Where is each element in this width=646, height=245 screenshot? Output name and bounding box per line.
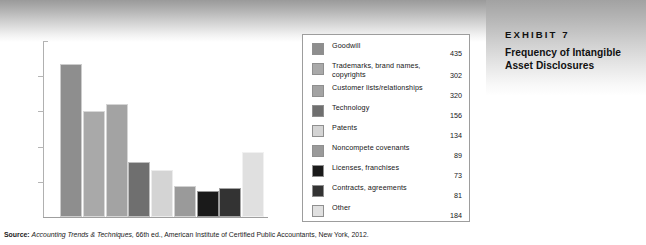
legend-item-label: Other xyxy=(324,203,440,212)
legend-item: Other184 xyxy=(312,203,462,220)
legend-item-value: 435 xyxy=(440,49,462,58)
legend-item: Technology156 xyxy=(312,103,462,120)
source-note: Source: Accounting Trends & Techniques, … xyxy=(4,231,634,238)
legend-color-swatch xyxy=(312,165,324,177)
source-detail: 66th ed., American Institute of Certifie… xyxy=(134,231,369,238)
y-axis-tick xyxy=(38,76,44,77)
legend-color-swatch xyxy=(312,43,324,55)
legend-color-swatch xyxy=(312,145,324,157)
legend-item-value: 156 xyxy=(440,111,462,120)
legend-item: Goodwill435 xyxy=(312,41,462,58)
exhibit-number: EXHIBIT 7 xyxy=(505,29,637,40)
legend-color-swatch xyxy=(312,125,324,137)
legend-item-label: Patents xyxy=(324,123,440,132)
exhibit-header: EXHIBIT 7 Frequency of Intangible Asset … xyxy=(505,29,637,72)
bar xyxy=(242,152,264,217)
y-axis-tick xyxy=(38,111,44,112)
legend-list: Goodwill435Trademarks, brand names, copy… xyxy=(312,41,462,223)
legend-color-swatch xyxy=(312,85,324,97)
legend-item-label: Licenses, franchises xyxy=(324,163,440,172)
bar xyxy=(83,111,105,217)
exhibit-title: Frequency of Intangible Asset Disclosure… xyxy=(505,46,637,72)
source-publication: Accounting Trends & Techniques, xyxy=(32,231,134,238)
y-axis-cap xyxy=(43,41,48,42)
legend-item-label: Customer lists/relationships xyxy=(324,83,440,92)
legend-item-value: 320 xyxy=(440,91,462,100)
legend-item-value: 81 xyxy=(440,191,462,200)
legend-item: Noncompete covenants89 xyxy=(312,143,462,160)
legend-item: Customer lists/relationships320 xyxy=(312,83,462,100)
legend-color-swatch xyxy=(312,105,324,117)
legend-item-label: Goodwill xyxy=(324,41,440,50)
legend-item-value: 73 xyxy=(440,171,462,180)
y-axis xyxy=(43,41,44,218)
y-axis-tick xyxy=(38,182,44,183)
y-axis-tick xyxy=(38,147,44,148)
bar xyxy=(128,162,150,217)
source-label: Source: xyxy=(4,231,30,238)
bar xyxy=(174,186,196,217)
chart-legend: Goodwill435Trademarks, brand names, copy… xyxy=(302,34,470,222)
x-axis xyxy=(43,217,268,218)
legend-color-swatch xyxy=(312,63,324,75)
legend-item-label: Technology xyxy=(324,103,440,112)
legend-item-value: 89 xyxy=(440,151,462,160)
legend-item-label: Contracts, agreements xyxy=(324,183,440,192)
legend-item-value: 302 xyxy=(440,71,462,80)
bar xyxy=(151,170,173,217)
legend-item: Licenses, franchises73 xyxy=(312,163,462,180)
legend-item-value: 134 xyxy=(440,131,462,140)
legend-item-value: 184 xyxy=(440,211,462,220)
bar xyxy=(60,64,82,217)
bar-chart xyxy=(0,0,290,228)
legend-color-swatch xyxy=(312,205,324,217)
bar xyxy=(106,104,128,217)
legend-item: Contracts, agreements81 xyxy=(312,183,462,200)
bar-series xyxy=(60,41,265,217)
bar xyxy=(197,191,219,217)
legend-item: Patents134 xyxy=(312,123,462,140)
legend-item-label: Trademarks, brand names, copyrights xyxy=(324,61,440,80)
legend-item: Trademarks, brand names, copyrights302 xyxy=(312,61,462,80)
legend-item-label: Noncompete covenants xyxy=(324,143,440,152)
legend-color-swatch xyxy=(312,185,324,197)
bar xyxy=(219,188,241,217)
